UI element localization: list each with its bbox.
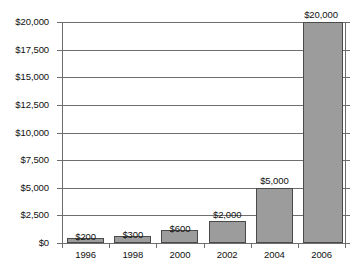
bar-value-label-1998: $300 xyxy=(109,230,156,240)
x-tick-3 xyxy=(204,243,205,248)
y-axis-label-17500: $17,500 xyxy=(15,45,49,55)
y-axis-label-0: $0 xyxy=(39,238,49,248)
y-axis-right-line xyxy=(345,22,346,244)
y-axis-label-5000: $5,000 xyxy=(21,183,49,193)
bar-2006[interactable] xyxy=(303,22,343,243)
y-axis-label-2500: $2,500 xyxy=(21,210,49,220)
x-tick-6 xyxy=(345,243,346,248)
bar-value-label-2000: $600 xyxy=(156,224,203,234)
x-tick-0 xyxy=(62,243,63,248)
x-axis-label-2000: 2000 xyxy=(156,249,203,260)
y-axis-label-7500: $7,500 xyxy=(21,155,49,165)
y-axis-line xyxy=(62,22,63,244)
y-axis-label-10000: $10,000 xyxy=(15,128,49,138)
bar-value-label-2004: $5,000 xyxy=(251,176,298,186)
bar-value-label-2002: $2,000 xyxy=(204,210,251,220)
y-axis-label-15000: $15,000 xyxy=(15,72,49,82)
x-axis-label-2004: 2004 xyxy=(251,249,298,260)
x-tick-1 xyxy=(109,243,110,248)
x-axis-label-1996: 1996 xyxy=(62,249,109,260)
x-tick-4 xyxy=(251,243,252,248)
bar-value-label-2006: $20,000 xyxy=(293,10,349,20)
y-axis-label-12500: $12,500 xyxy=(15,100,49,110)
x-tick-2 xyxy=(156,243,157,248)
bar-2004[interactable] xyxy=(256,188,293,243)
x-axis-label-2006: 2006 xyxy=(298,249,345,260)
bar-value-label-1996: $200 xyxy=(62,232,109,242)
bar-2002[interactable] xyxy=(209,221,246,243)
x-axis-label-1998: 1998 xyxy=(109,249,156,260)
x-tick-5 xyxy=(298,243,299,248)
bar-chart: $20,000 $17,500 $15,000 $12,500 $10,000 … xyxy=(0,0,360,280)
y-axis-label-20000: $20,000 xyxy=(15,17,49,27)
x-axis-label-2002: 2002 xyxy=(204,249,251,260)
